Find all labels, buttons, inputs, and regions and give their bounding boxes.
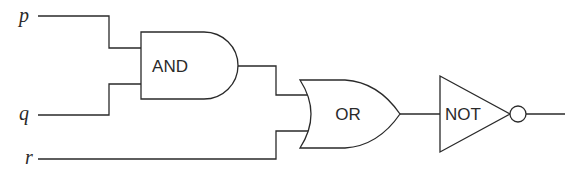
not-gate-label: NOT — [445, 105, 481, 124]
input-label-p: p — [17, 4, 29, 27]
wire-and-to-or — [237, 66, 309, 95]
logic-circuit-diagram: p q r AND OR NOT — [0, 0, 582, 170]
and-gate-label: AND — [152, 57, 188, 76]
wire-p-to-and — [38, 16, 141, 48]
or-gate-label: OR — [335, 105, 361, 124]
and-gate: AND — [141, 32, 238, 99]
wire-r-to-or — [38, 131, 309, 159]
not-gate: NOT — [440, 76, 526, 152]
or-gate: OR — [300, 80, 400, 148]
not-gate-bubble — [510, 106, 526, 122]
input-label-r: r — [25, 146, 33, 168]
input-label-q: q — [19, 102, 29, 125]
wire-q-to-and — [38, 84, 141, 115]
